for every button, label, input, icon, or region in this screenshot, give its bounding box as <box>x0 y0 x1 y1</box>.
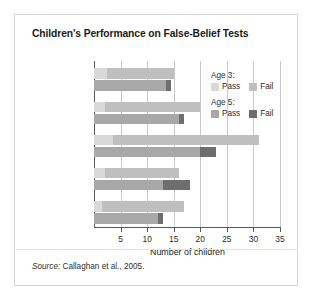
legend-group-title: Age 3: <box>211 71 278 80</box>
x-tick-label-35: 35 <box>275 234 284 244</box>
bar-row-thailand: Thailand <box>94 194 280 227</box>
chart-legend: Age 3: Pass Fail Age 5: Pass <box>211 71 278 125</box>
legend-swatch-age3-pass <box>211 83 219 91</box>
x-axis-line <box>94 227 281 228</box>
bar-age3-samoa <box>94 168 179 179</box>
bar-segment-age5-fail <box>200 147 216 158</box>
x-tick-label-10: 10 <box>142 234 151 244</box>
chart-title: Children's Performance on False-Belief T… <box>32 28 248 39</box>
x-tick-label-20: 20 <box>196 234 205 244</box>
x-tick-30 <box>253 228 254 232</box>
bar-age3-canada <box>94 68 174 79</box>
legend-label-age5-pass: Pass <box>222 109 240 118</box>
bar-segment-age5-pass <box>94 213 158 224</box>
x-tick-5 <box>121 228 122 232</box>
legend-swatch-age3-fail <box>249 83 257 91</box>
x-tick-35 <box>280 228 281 232</box>
bar-age5-thailand <box>94 213 163 224</box>
source-prefix: Source: <box>32 262 60 271</box>
legend-group-age3: Age 3: Pass Fail <box>211 71 278 91</box>
footer-divider <box>16 249 298 250</box>
x-tick-15 <box>174 228 175 232</box>
bar-segment-age5-pass <box>94 147 200 158</box>
bar-segment-age5-pass <box>94 114 179 125</box>
bar-row-samoa: Samoa <box>94 161 280 194</box>
x-tick-label-25: 25 <box>222 234 231 244</box>
bar-age5-peru <box>94 147 216 158</box>
bar-age5-samoa <box>94 180 190 191</box>
legend-label-age5-fail: Fail <box>260 109 273 118</box>
bar-row-peru: Peru <box>94 127 280 160</box>
legend-item-age5-pass: Pass <box>211 109 240 118</box>
source-citation: Callaghan et al., 2005. <box>60 262 144 271</box>
x-tick-25 <box>227 228 228 232</box>
source-note: Source: Callaghan et al., 2005. <box>32 262 144 271</box>
legend-swatch-age5-fail <box>249 110 257 118</box>
bar-segment-age3-fail <box>107 68 173 79</box>
bar-age5-canada <box>94 80 171 91</box>
bar-segment-age5-pass <box>94 80 166 91</box>
legend-label-age3-fail: Fail <box>260 82 273 91</box>
legend-item-age5-fail: Fail <box>249 109 273 118</box>
x-tick-label-5: 5 <box>118 234 123 244</box>
legend-group-title: Age 5: <box>211 98 278 107</box>
bar-segment-age5-fail <box>166 80 171 91</box>
legend-swatch-age5-pass <box>211 110 219 118</box>
bar-segment-age3-fail <box>105 168 179 179</box>
bar-age5-india <box>94 114 184 125</box>
bar-segment-age3-fail <box>105 102 201 113</box>
x-tick-label-15: 15 <box>169 234 178 244</box>
legend-item-age3-fail: Fail <box>249 82 273 91</box>
bar-segment-age3-pass <box>94 135 113 146</box>
legend-item-age3-pass: Pass <box>211 82 240 91</box>
legend-label-age3-pass: Pass <box>222 82 240 91</box>
x-tick-label-30: 30 <box>249 234 258 244</box>
gridline-35 <box>280 61 281 227</box>
bar-segment-age3-fail <box>113 135 259 146</box>
bar-segment-age5-pass <box>94 180 163 191</box>
legend-group-age5: Age 5: Pass Fail <box>211 98 278 118</box>
bar-segment-age5-fail <box>158 213 163 224</box>
bar-segment-age5-fail <box>163 180 190 191</box>
bar-segment-age5-fail <box>179 114 184 125</box>
bar-segment-age3-pass <box>94 168 105 179</box>
bar-age3-thailand <box>94 201 184 212</box>
bar-segment-age3-pass <box>94 68 107 79</box>
bar-segment-age3-pass <box>94 201 102 212</box>
x-tick-10 <box>147 228 148 232</box>
bar-segment-age3-pass <box>94 102 105 113</box>
x-tick-20 <box>200 228 201 232</box>
bar-segment-age3-fail <box>102 201 184 212</box>
figure-panel: Children's Performance on False-Belief T… <box>14 14 298 286</box>
bar-age3-peru <box>94 135 259 146</box>
bar-age3-india <box>94 102 200 113</box>
